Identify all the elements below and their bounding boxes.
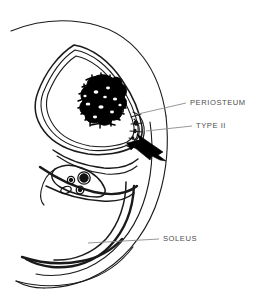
- label-soleus: SOLEUS: [163, 234, 197, 243]
- figure-canvas: PERIOSTEUM TYPE II SOLEUS: [0, 0, 262, 296]
- anatomical-cross-section-figure: PERIOSTEUM TYPE II SOLEUS: [0, 0, 262, 296]
- vessel-small-lower-lumen: [78, 188, 82, 192]
- vessel-large-lumen: [80, 174, 88, 182]
- label-periosteum: PERIOSTEUM: [190, 98, 246, 107]
- vessel-small-upper-lumen: [69, 178, 72, 181]
- label-type-ii: TYPE II: [196, 121, 226, 130]
